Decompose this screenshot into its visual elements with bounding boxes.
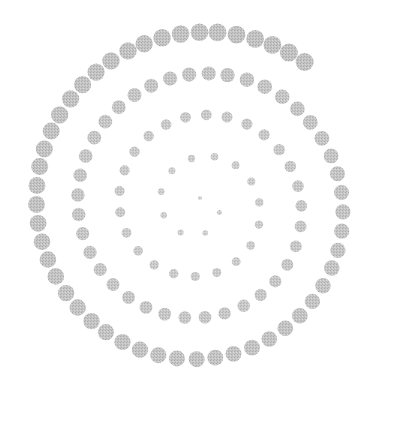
spiral-dot	[232, 161, 240, 169]
spiral-dot	[217, 210, 222, 215]
spiral-dot	[169, 350, 185, 366]
spiral-dot	[305, 294, 320, 309]
spiral-dot	[168, 167, 175, 174]
spiral-dot	[330, 243, 345, 258]
spiral-dot	[198, 196, 202, 200]
spiral-dot	[259, 129, 270, 140]
spiral-dot	[292, 180, 304, 192]
spiral-dot	[30, 215, 47, 232]
spiral-dot	[128, 88, 142, 102]
spiral-dot	[158, 308, 171, 321]
spiral-dot	[191, 23, 209, 41]
spiral-dot	[119, 42, 136, 59]
spiral-dot	[115, 207, 125, 217]
spiral-dot	[58, 285, 74, 301]
spiral-dot	[324, 260, 339, 275]
spiral-dot	[150, 347, 166, 363]
spiral-dot	[315, 131, 330, 146]
spiral-dot	[330, 166, 345, 181]
spiral-dot	[290, 240, 302, 252]
spiral-dot	[257, 79, 272, 94]
spiral-dot	[88, 64, 105, 81]
spiral-dot	[292, 308, 308, 324]
spiral-dot	[158, 188, 165, 195]
spiral-dot	[79, 149, 93, 163]
spiral-dot	[264, 36, 282, 54]
spiral-dot	[71, 188, 84, 201]
spiral-dot	[232, 257, 241, 266]
spiral-dot	[199, 311, 212, 324]
spiral-dot	[163, 72, 177, 86]
spiral-dot	[98, 324, 114, 340]
spiral-dot	[255, 220, 263, 228]
spiral-dot	[102, 52, 119, 69]
spiral-dot	[238, 300, 250, 312]
spiral-dot	[191, 272, 200, 281]
spiral-dot	[112, 100, 126, 114]
spiral-dot	[189, 351, 205, 367]
spiral-dot	[220, 68, 234, 82]
spiral-dot	[87, 131, 101, 145]
spiral-dot	[244, 340, 260, 356]
spiral-dot	[290, 102, 305, 117]
spiral-dot	[324, 149, 339, 164]
spiral-dot	[275, 90, 290, 105]
spiral-dot	[246, 30, 264, 48]
spiral-dot	[207, 350, 223, 366]
spiral-dot	[212, 268, 221, 277]
spiral-dot	[255, 198, 263, 206]
spiral-dot	[241, 119, 252, 130]
spiral-dot	[334, 185, 349, 200]
spiral-dot	[83, 313, 99, 329]
spiral-dot	[201, 109, 212, 120]
spiral-dot	[40, 251, 57, 268]
spiral-dot	[296, 53, 314, 71]
spiral-dot	[115, 186, 125, 196]
spiral-dot	[335, 204, 350, 219]
spiral-dot	[43, 123, 60, 140]
spiral-dot	[153, 29, 171, 47]
spiral-dots	[28, 23, 350, 367]
spiral-dot	[240, 73, 254, 87]
spiral-dot	[247, 177, 255, 185]
spiral-dot	[114, 334, 130, 350]
spiral-dot	[202, 66, 216, 80]
spiral-dot	[274, 144, 285, 155]
spiral-dot	[98, 115, 112, 129]
spiral-dot	[211, 153, 219, 161]
spiral-dot	[94, 263, 107, 276]
spiral-dot	[278, 321, 294, 337]
spiral-dot	[269, 275, 281, 287]
spiral-dot	[150, 260, 159, 269]
spiral-dot	[31, 158, 48, 175]
spiral-dot	[29, 177, 46, 194]
spiral-dot-artwork	[0, 0, 412, 435]
spiral-dot	[133, 246, 143, 256]
spiral-dot	[62, 90, 79, 107]
spiral-dot	[129, 146, 139, 156]
spiral-dot	[51, 106, 68, 123]
spiral-dot	[144, 131, 154, 141]
spiral-dot	[226, 346, 242, 362]
spiral-dot	[161, 212, 167, 218]
spiral-dot	[140, 301, 153, 314]
spiral-dot	[161, 119, 172, 130]
spiral-dot	[76, 227, 89, 240]
spiral-dot	[296, 200, 308, 212]
spiral-dot	[48, 268, 65, 285]
spiral-dot	[228, 26, 246, 44]
spiral-dot	[107, 278, 120, 291]
spiral-dot	[222, 112, 233, 123]
spiral-dot	[285, 161, 296, 172]
spiral-dot	[262, 331, 278, 347]
spiral-dot	[136, 35, 153, 52]
spiral-dot	[182, 68, 196, 82]
spiral-dot	[122, 291, 135, 304]
spiral-dot	[209, 24, 227, 42]
spiral-dot	[218, 307, 230, 319]
spiral-dot	[246, 241, 255, 250]
spiral-dot	[122, 228, 132, 238]
spiral-dot	[334, 224, 349, 239]
spiral-dot	[280, 44, 298, 62]
spiral-dot	[179, 311, 192, 324]
